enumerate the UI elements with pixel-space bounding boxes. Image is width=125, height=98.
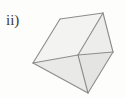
figure-panel: ii) [0, 0, 125, 98]
triangular-prism-illustration [0, 0, 125, 98]
